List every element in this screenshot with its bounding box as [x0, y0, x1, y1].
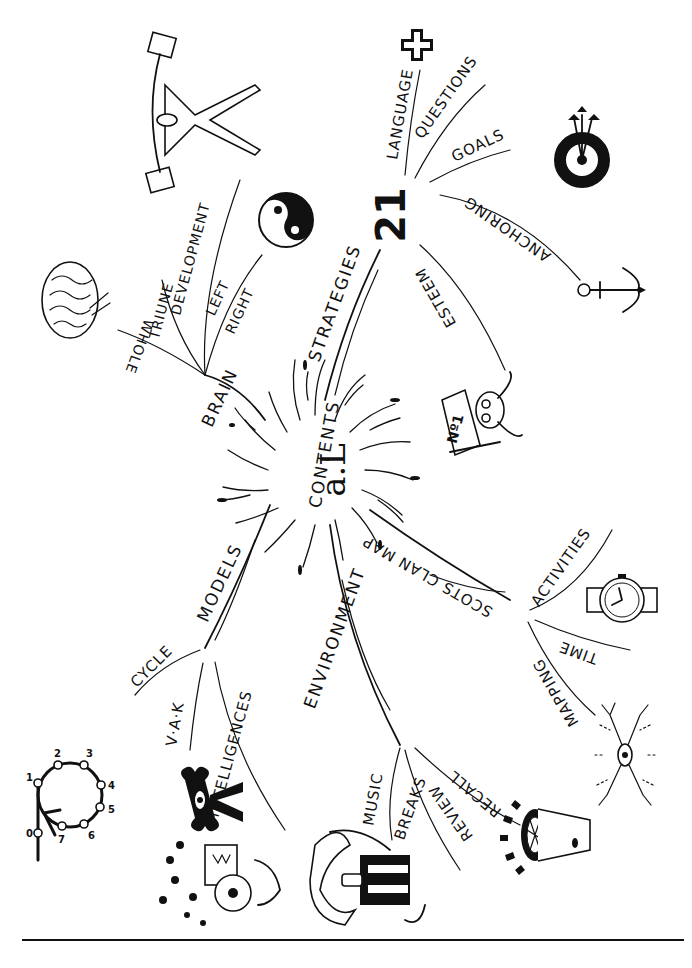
- strategies-child-anchoring: ANCHORING: [460, 193, 554, 266]
- multiple-intelligences-icon: [159, 841, 280, 926]
- scots-child-activities: ACTIVITIES: [527, 525, 594, 610]
- cycle-node-3: [80, 761, 88, 769]
- scots-child-mapping: MAPPING: [529, 655, 582, 729]
- cycle-label-0: 0: [26, 828, 33, 839]
- eye-figure-icon: [181, 767, 243, 832]
- cycle-label-3: 3: [86, 748, 93, 759]
- strategies-count: 21: [368, 187, 414, 243]
- strategies-child-esteem: ESTEEM: [411, 264, 460, 330]
- center-node: CONTENTS a.L: [217, 360, 420, 575]
- branch-label-scots-clan-map: SCOTS CLAN MAP: [359, 532, 495, 621]
- cycle-node-6: [80, 820, 88, 828]
- cycle-node-0: [34, 829, 42, 837]
- cycle-label-7: 7: [58, 834, 65, 845]
- cycle-node-5: [96, 803, 104, 811]
- plus-icon: [401, 29, 433, 61]
- anchor-icon: [578, 268, 646, 312]
- cycle-node-1: [34, 779, 42, 787]
- cycle-label-4: 4: [108, 780, 115, 791]
- yin-yang-icon: [249, 183, 323, 257]
- brain-child-left: LEFT: [202, 278, 232, 318]
- number-one-badge-icon: Nº1: [442, 372, 522, 455]
- cycle-node-4: [97, 781, 105, 789]
- cycle-label-5: 5: [108, 804, 115, 815]
- cycle-label-6: 6: [88, 830, 95, 841]
- musician-icon: [310, 830, 425, 925]
- bottom-rule-divider: [22, 939, 684, 941]
- cycle-label-1: 1: [26, 772, 33, 783]
- wristwatch-icon: [587, 574, 657, 622]
- center-logo: a.L: [313, 443, 353, 497]
- branch-label-models: MODELS: [193, 540, 247, 625]
- target-with-arrows-icon: [560, 106, 604, 182]
- environment-child-breaks: BREAKS: [391, 774, 430, 842]
- branch-brain: BRAIN WHOLE TRIUNE DEVELOPMENT LEFT RIGH…: [42, 32, 323, 430]
- brain-child-development: DEVELOPMENT: [167, 201, 212, 317]
- mind-map-canvas: CONTENTS a.L BRAIN WHOLE TRIUNE DEVELOPM…: [0, 0, 692, 968]
- learning-cycle-icon: 0 1 2 3 4 5 6 7: [26, 748, 115, 860]
- models-child-vak: V·A·K: [162, 700, 188, 747]
- branch-models: MODELS CYCLE V·A·K INTELLIGENCES 0 1 2 3…: [26, 505, 285, 926]
- cycle-node-7: [58, 822, 66, 830]
- branch-strategies: STRATEGIES 21 LANGUAGE QUESTIONS GOALS A…: [304, 29, 646, 455]
- cycle-node-2: [54, 761, 62, 769]
- environment-child-music: MUSIC: [360, 771, 387, 827]
- models-child-cycle: CYCLE: [127, 642, 176, 691]
- cycle-label-2: 2: [54, 748, 61, 759]
- neuron-icon: [595, 703, 655, 805]
- branch-scots-clan-map: SCOTS CLAN MAP ACTIVITIES TIME MAPPING: [359, 510, 657, 805]
- branch-label-environment: ENVIRONMENT: [300, 565, 370, 711]
- megaphone-icon: [500, 800, 590, 875]
- brain-icon: [42, 262, 110, 338]
- weightlifter-icon: [146, 32, 260, 193]
